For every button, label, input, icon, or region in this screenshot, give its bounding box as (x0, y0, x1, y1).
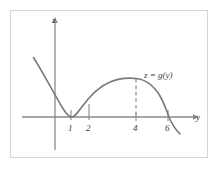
horizontal-axis (22, 114, 199, 120)
horizontal-axis-label: y (196, 113, 200, 122)
tick-marks (71, 104, 168, 121)
curve-equation-label: z = g(y) (144, 71, 173, 80)
plot-canvas (0, 0, 218, 169)
tick-label-6: 6 (165, 124, 170, 133)
tick-label-1: 1 (68, 124, 73, 133)
tick-label-2: 2 (86, 124, 91, 133)
figure-container: z y z = g(y) 1 2 4 6 (0, 0, 218, 169)
vertical-axis-label: z (52, 16, 56, 25)
vertical-axis (52, 17, 58, 150)
tick-label-4: 4 (133, 124, 138, 133)
